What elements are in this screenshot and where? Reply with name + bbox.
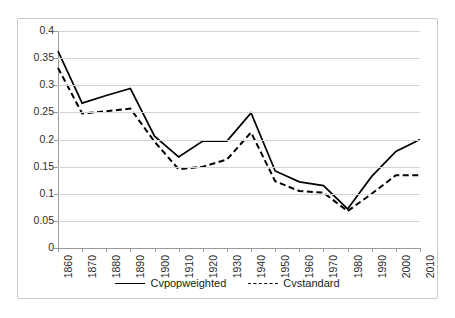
x-tick-mark [82,248,83,252]
gridline [58,85,420,86]
legend-swatch-solid [115,283,145,284]
gridline [58,31,420,32]
x-tick-mark [348,248,349,252]
legend-swatch-dashed [248,283,278,284]
x-axis-tick-label: 1930 [232,255,243,278]
y-tick-mark [54,221,58,222]
y-tick-mark [54,85,58,86]
x-tick-mark [396,248,397,252]
legend-label: Cvpopweighted [150,277,226,289]
x-tick-mark [130,248,131,252]
y-axis-tick-label: 0.3 [39,79,54,90]
x-tick-mark [420,248,421,252]
legend-label: Cvstandard [283,277,339,289]
x-tick-mark [179,248,180,252]
y-axis-labels: 00.050.10.150.20.250.30.350.4 [18,31,54,248]
x-tick-mark [372,248,373,252]
gridline [58,112,420,113]
plot-area [58,31,420,248]
gridline [58,221,420,222]
x-tick-mark [251,248,252,252]
x-axis-tick-label: 1950 [280,255,291,278]
x-tick-mark [227,248,228,252]
y-tick-mark [54,112,58,113]
y-tick-mark [54,167,58,168]
y-tick-mark [54,140,58,141]
chart-legend: CvpopweightedCvstandard [18,277,437,289]
gridline [58,194,420,195]
x-axis-tick-label: 1920 [208,255,219,278]
x-tick-mark [155,248,156,252]
y-axis-tick-label: 0.2 [39,134,54,145]
y-tick-mark [54,31,58,32]
x-axis-tick-label: 2000 [401,255,412,278]
x-axis-tick-label: 1980 [353,255,364,278]
x-axis-tick-label: 1970 [328,255,339,278]
x-tick-mark [275,248,276,252]
chart-container: 00.050.10.150.20.250.30.350.4 1860187018… [17,18,438,299]
x-axis-tick-label: 1890 [135,255,146,278]
x-axis-tick-label: 1870 [87,255,98,278]
x-tick-mark [299,248,300,252]
series-line-cvpopweighted [58,51,420,209]
gridline [58,58,420,59]
y-axis-tick-label: 0.15 [34,161,54,172]
y-axis-tick-label: 0.05 [34,215,54,226]
x-axis-tick-label: 1900 [160,255,171,278]
x-axis-line [58,248,420,249]
x-tick-mark [323,248,324,252]
y-axis-tick-label: 0.4 [39,25,54,36]
x-tick-mark [58,248,59,252]
gridline [58,140,420,141]
x-axis-tick-label: 1940 [256,255,267,278]
legend-item[interactable]: Cvstandard [248,277,339,289]
y-tick-mark [54,194,58,195]
x-tick-mark [203,248,204,252]
x-tick-mark [106,248,107,252]
y-axis-tick-label: 0.25 [34,106,54,117]
y-axis-tick-label: 0.1 [39,188,54,199]
x-axis-tick-label: 1880 [111,255,122,278]
x-axis-tick-label: 1910 [184,255,195,278]
x-axis-tick-label: 1960 [304,255,315,278]
x-axis-tick-label: 1860 [63,255,74,278]
y-axis-tick-label: 0.35 [34,52,54,63]
y-tick-mark [54,58,58,59]
x-axis-tick-label: 2010 [425,255,436,278]
gridline [58,167,420,168]
x-axis-tick-label: 1990 [377,255,388,278]
legend-item[interactable]: Cvpopweighted [115,277,226,289]
